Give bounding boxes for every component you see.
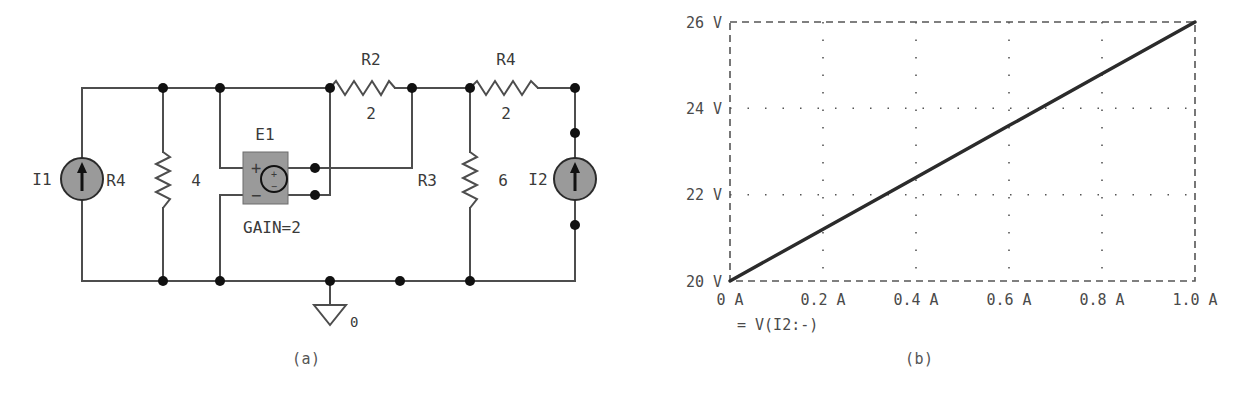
- e1-inner-plus: +: [271, 169, 277, 180]
- node: [570, 128, 580, 138]
- plot-legend-entry: = V(I2:-): [737, 316, 818, 334]
- resistor-r4-right-value: 2: [501, 104, 511, 123]
- x-tick-label: 1.0 A: [1172, 291, 1217, 309]
- resistor-r3: R3 6: [418, 152, 508, 208]
- node: [158, 276, 168, 286]
- resistor-r2: R2 2: [330, 50, 395, 123]
- e1-body: [243, 152, 288, 204]
- e1-inner-minus: −: [271, 181, 277, 192]
- figure-container: R4 4 R2 2 R4 2 R3 6: [0, 0, 1250, 403]
- node: [215, 276, 225, 286]
- resistor-r4-left-label: R4: [106, 171, 125, 190]
- current-source-i1-label: I1: [32, 170, 51, 189]
- node: [407, 83, 417, 93]
- node: [158, 83, 168, 93]
- e1-label: E1: [255, 125, 274, 144]
- x-axis-labels: 0 A 0.2 A 0.4 A 0.6 A 0.8 A 1.0 A: [716, 291, 1217, 309]
- resistor-r4-left: R4 4: [106, 152, 200, 208]
- current-source-i2-label: I2: [528, 170, 547, 189]
- node: [310, 190, 320, 200]
- node: [570, 220, 580, 230]
- current-source-i1: I1: [32, 158, 103, 200]
- x-tick-label: 0.2 A: [800, 291, 845, 309]
- node: [325, 83, 335, 93]
- resistor-r3-label: R3: [418, 171, 437, 190]
- dependent-source-e1: + − + − E1 GAIN=2: [243, 125, 301, 237]
- circuit-schematic: R4 4 R2 2 R4 2 R3 6: [0, 0, 625, 403]
- x-tick-label: 0.6 A: [986, 291, 1031, 309]
- plot-panel: 26 V 24 V 22 V 20 V 0 A 0.2 A 0.4 A 0.6 …: [625, 0, 1250, 403]
- resistor-zigzag: [330, 81, 395, 95]
- resistor-r2-label: R2: [361, 50, 380, 69]
- caption-a: (a): [292, 350, 321, 368]
- e1-plus-terminal: +: [251, 158, 261, 178]
- resistor-zigzag: [470, 81, 538, 95]
- series-line-v-i2: [730, 22, 1195, 281]
- e1-minus-terminal: −: [251, 185, 261, 205]
- voltage-current-plot: 26 V 24 V 22 V 20 V 0 A 0.2 A 0.4 A 0.6 …: [625, 0, 1250, 403]
- resistor-zigzag: [156, 152, 170, 208]
- resistor-r4-right: R4 2: [470, 50, 538, 123]
- ground-triangle: [314, 305, 346, 325]
- x-tick-label: 0 A: [716, 291, 743, 309]
- node: [465, 83, 475, 93]
- y-axis-labels: 26 V 24 V 22 V 20 V: [686, 14, 722, 291]
- resistor-r3-value: 6: [498, 171, 508, 190]
- e1-gain-label: GAIN=2: [243, 218, 301, 237]
- resistor-r4-right-label: R4: [496, 50, 515, 69]
- y-tick-label: 26 V: [686, 14, 722, 32]
- y-tick-label: 22 V: [686, 186, 722, 204]
- resistor-r4-left-value: 4: [191, 171, 201, 190]
- ground-symbol: 0: [314, 305, 358, 330]
- circuit-panel: R4 4 R2 2 R4 2 R3 6: [0, 0, 625, 403]
- resistor-zigzag: [463, 152, 477, 208]
- node: [465, 276, 475, 286]
- node: [395, 276, 405, 286]
- node: [310, 163, 320, 173]
- x-tick-label: 0.4 A: [893, 291, 938, 309]
- caption-b: (b): [905, 350, 934, 368]
- node: [215, 83, 225, 93]
- y-tick-label: 20 V: [686, 273, 722, 291]
- node: [570, 83, 580, 93]
- resistor-r2-value: 2: [366, 104, 376, 123]
- node: [325, 276, 335, 286]
- y-tick-label: 24 V: [686, 100, 722, 118]
- x-tick-label: 0.8 A: [1079, 291, 1124, 309]
- current-source-i2: I2: [528, 158, 596, 200]
- ground-label: 0: [350, 314, 358, 330]
